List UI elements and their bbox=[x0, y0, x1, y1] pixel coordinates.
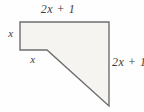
geometry-figure: 2x + 1 x x 2x + 1 bbox=[0, 0, 144, 112]
notch-side-label: x bbox=[30, 54, 35, 65]
right-side-label: 2x + 1 bbox=[112, 56, 144, 68]
top-side-label: 2x + 1 bbox=[41, 3, 75, 15]
left-side-label: x bbox=[8, 28, 13, 39]
